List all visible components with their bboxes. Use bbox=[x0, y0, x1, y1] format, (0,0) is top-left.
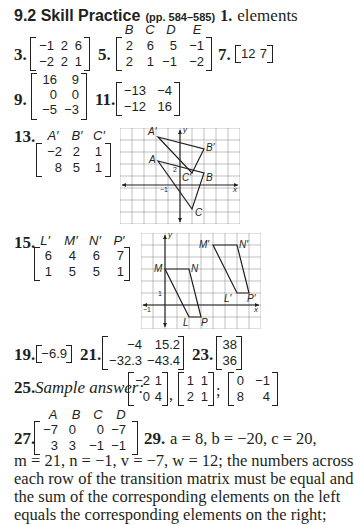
answer-7-number: 7. bbox=[218, 45, 231, 65]
answer-29-line-1: a = 8, b = −20, c = 20, bbox=[170, 429, 317, 449]
answer-19-number: 19. bbox=[14, 345, 35, 365]
answer-7-matrix: 12 7 bbox=[235, 45, 273, 63]
answer-21-number: 21. bbox=[80, 345, 101, 365]
answer-21-matrix: −4 15.2 −32.3 −43.4 bbox=[102, 336, 184, 370]
answer-5-matrix: 2 6 5 −1 2 1 −1 −2 bbox=[116, 37, 212, 71]
answer-25-number: 25. bbox=[14, 378, 35, 398]
answer-25-matrix-2: 1 1 2 1 bbox=[178, 372, 214, 406]
answer-13-matrix: −2 2 1 8 5 1 bbox=[36, 143, 111, 177]
answer-29-line-3: each row of the transition matrix must b… bbox=[14, 469, 354, 489]
answer-3-matrix: −1 2 6 −2 2 1 bbox=[30, 37, 90, 71]
answer-3-number: 3. bbox=[14, 45, 27, 65]
answer-9-matrix: 16 9 0 0 −5 −3 bbox=[31, 73, 87, 120]
answer-29-line-4: the sum of the corresponding elements on… bbox=[14, 487, 340, 507]
answer-15-graph: M N L P M′ N′ L′ P′ y x −1 1 bbox=[141, 233, 261, 329]
answer-15-matrix: 6 4 6 7 1 5 5 1 bbox=[34, 247, 130, 281]
answer-13-number: 13. bbox=[14, 127, 35, 147]
answer-29-line-5: equals the corresponding elements on the… bbox=[14, 505, 327, 525]
answer-15-number: 15. bbox=[14, 233, 35, 253]
answer-25-matrix-3: 0 −1 8 4 bbox=[228, 372, 278, 406]
answer-23-matrix: 38 36 bbox=[216, 336, 242, 370]
answer-29-number: 29. bbox=[144, 429, 165, 449]
answer-5-number: 5. bbox=[98, 45, 111, 65]
answer-19-matrix: −6.9 bbox=[36, 345, 72, 363]
answer-23-number: 23. bbox=[192, 345, 213, 365]
answer-11-number: 11. bbox=[95, 90, 115, 110]
answer-27-matrix: −7 0 0 −7 3 3 −1 −1 bbox=[34, 421, 138, 455]
answer-11-matrix: −13 −4 −12 16 bbox=[116, 82, 180, 116]
answer-27-number: 27. bbox=[14, 429, 35, 449]
answer-13-graph: A′ B′ C′ A B C y x −1 2 bbox=[120, 128, 240, 224]
answer-1-number: 1. bbox=[220, 7, 232, 24]
answer-29-line-2: m = 21, n = −1, v = −7, w = 12; the numb… bbox=[14, 451, 354, 471]
answer-1-text: elements bbox=[237, 6, 297, 25]
answer-25-matrix-1: −2 1 0 4 bbox=[128, 372, 168, 406]
answer-9-number: 9. bbox=[14, 90, 27, 110]
